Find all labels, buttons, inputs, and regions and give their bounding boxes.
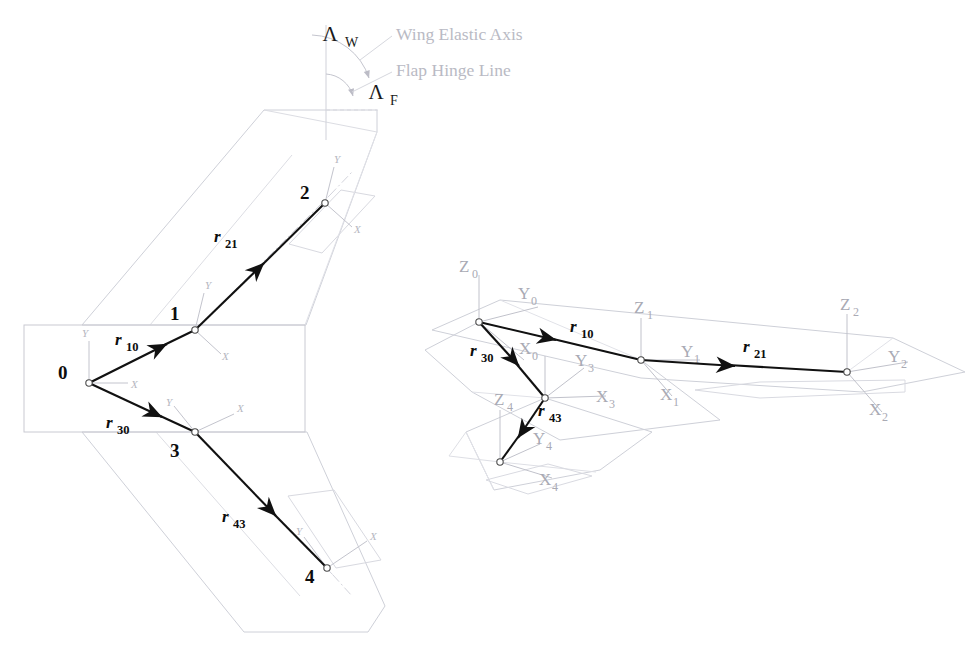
- label-z1-sub: 1: [647, 308, 653, 322]
- label-y4-sub: 4: [546, 439, 552, 453]
- vector3d-label-r43-base: r: [538, 401, 545, 420]
- node-marker-0: [86, 380, 92, 386]
- label-y0-sub: 0: [531, 294, 537, 308]
- vector-label-r43-sub: 43: [233, 517, 246, 531]
- label-x2-sub: 2: [882, 410, 888, 424]
- axis-label-x2: X: [353, 223, 362, 235]
- axis-label-x0: X: [130, 378, 139, 390]
- sweep-flap-subscript: F: [390, 93, 398, 108]
- node3d-marker-4: [497, 459, 503, 465]
- label-y4-base: Y: [533, 429, 545, 448]
- axis-label-x3: X: [236, 402, 245, 414]
- label-x2-base: X: [869, 400, 881, 419]
- vector3d-label-r21-base: r: [743, 337, 750, 356]
- label-x0-sub: 0: [532, 349, 538, 363]
- vector3d-label-r43-sub: 43: [549, 411, 562, 425]
- label-y3-base: Y: [575, 351, 587, 370]
- vector-label-r10-sub: 10: [126, 340, 139, 354]
- label-y2-sub: 2: [901, 357, 907, 371]
- label-x3-sub: 3: [609, 397, 615, 411]
- sweep-wing-symbol: Λ: [322, 22, 338, 46]
- label-z0-sub: 0: [472, 267, 478, 281]
- label-x4-sub: 4: [552, 480, 558, 494]
- label-y3-sub: 3: [588, 361, 594, 375]
- label-x1-sub: 1: [673, 395, 679, 409]
- canvas-background: [0, 0, 972, 645]
- label-x0-base: X: [519, 339, 531, 358]
- node3d-marker-0: [476, 319, 482, 325]
- label-y2-base: Y: [888, 347, 900, 366]
- label-z0-base: Z: [459, 257, 469, 276]
- axis-label-x1: X: [221, 350, 230, 362]
- label-z4-base: Z: [494, 390, 504, 409]
- vector-label-r30-base: r: [106, 413, 113, 432]
- vector3d-label-r30-base: r: [470, 341, 477, 360]
- vector3d-label-r21-sub: 21: [754, 347, 767, 361]
- vector-label-r10-base: r: [115, 330, 122, 349]
- vector3d-label-r10-base: r: [570, 317, 577, 336]
- node3d-marker-1: [638, 357, 644, 363]
- vector-label-r21-base: r: [214, 227, 221, 246]
- label-x1-base: X: [660, 385, 672, 404]
- axis-label-x4: X: [369, 530, 378, 542]
- node-marker-4: [324, 565, 330, 571]
- node-label-2: 2: [300, 182, 310, 203]
- wing-elastic-axis-label: Wing Elastic Axis: [396, 24, 523, 44]
- figure-canvas: Λ W Λ F Wing Elastic Axis Flap Hinge Lin…: [0, 0, 972, 645]
- node-label-4: 4: [305, 566, 315, 587]
- wing-kinematics-diagram: Λ W Λ F Wing Elastic Axis Flap Hinge Lin…: [0, 0, 972, 645]
- node3d-marker-2: [844, 369, 850, 375]
- vector-label-r21-sub: 21: [225, 237, 238, 251]
- label-z2-base: Z: [840, 295, 850, 314]
- flap-hinge-line-label: Flap Hinge Line: [396, 60, 511, 80]
- node-label-1: 1: [170, 303, 180, 324]
- node-marker-3: [192, 429, 198, 435]
- vector-label-r30-sub: 30: [117, 423, 130, 437]
- node-label-0: 0: [58, 362, 68, 383]
- vector3d-label-r10-sub: 10: [581, 327, 594, 341]
- label-y1-base: Y: [681, 342, 693, 361]
- node-marker-1: [192, 327, 198, 333]
- label-z2-sub: 2: [853, 305, 859, 319]
- label-z4-sub: 4: [507, 400, 513, 414]
- node-marker-2: [322, 200, 328, 206]
- label-x3-base: X: [596, 387, 608, 406]
- vector-label-r43-base: r: [222, 507, 229, 526]
- vector3d-label-r30-sub: 30: [481, 351, 494, 365]
- sweep-wing-subscript: W: [345, 35, 359, 50]
- sweep-flap-symbol: Λ: [368, 80, 384, 104]
- label-y0-base: Y: [518, 284, 530, 303]
- node-label-3: 3: [170, 440, 180, 461]
- label-z1-base: Z: [634, 298, 644, 317]
- label-x4-base: X: [539, 470, 551, 489]
